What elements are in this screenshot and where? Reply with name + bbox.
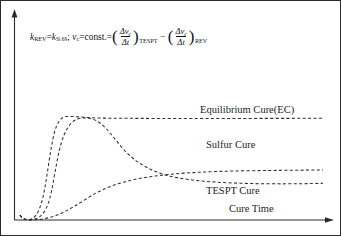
- formula-term-tespt: ( Δvc Δt )TESPT: [112, 27, 157, 46]
- formula-minus-operator: −: [160, 32, 165, 42]
- formula-semicolon: ;: [67, 32, 70, 42]
- formula-delta-v-1: Δv: [120, 26, 129, 36]
- formula-annotation: kREV = kSi 69 ; vc =const.= ( Δvc Δt )TE…: [30, 27, 207, 46]
- formula-fraction-1-numerator: Δvc: [119, 27, 132, 36]
- formula-fraction-1: Δvc Δt: [119, 27, 132, 46]
- formula-v-sub: c: [77, 35, 80, 42]
- curve-label-tespt-cure: TESPT Cure: [206, 186, 260, 197]
- formula-k-rev: kREV: [30, 32, 47, 42]
- x-axis-label: Cure Time: [229, 204, 274, 215]
- arrow-up-icon: [12, 9, 18, 18]
- curve-label-sulfur-cure: Sulfur Cure: [206, 140, 255, 151]
- formula-delta-v-2: Δv: [175, 26, 184, 36]
- formula-term-rev: ( Δvc Δt )REV: [168, 27, 208, 46]
- formula-k-sub-rev: REV: [34, 35, 46, 42]
- curve-equilibrium-cure: [20, 116, 323, 219]
- figure-container: kREV = kSi 69 ; vc =const.= ( Δvc Δt )TE…: [0, 0, 341, 236]
- formula-paren-open-1: (: [112, 28, 118, 45]
- formula-paren-close-1: ): [133, 28, 139, 45]
- formula-delta-v-sub-1: c: [129, 31, 131, 37]
- formula-paren-close-2: ): [189, 28, 195, 45]
- formula-k-si69: kSi 69: [52, 32, 67, 42]
- formula-tag-rev: REV: [195, 37, 207, 44]
- curve-sulfur-cure: [20, 118, 323, 220]
- formula-fraction-2-numerator: Δvc: [174, 27, 187, 36]
- formula-paren-open-2: (: [168, 28, 174, 45]
- formula-vc: vc: [72, 32, 79, 42]
- formula-delta-v-sub-2: c: [184, 31, 186, 37]
- curve-tespt-cure: [20, 170, 323, 220]
- formula-equals-2: =const.=: [79, 32, 112, 42]
- formula-tag-tespt: TESPT: [139, 37, 157, 44]
- formula-fraction-2: Δvc Δt: [174, 27, 187, 46]
- arrow-right-icon: [325, 217, 334, 223]
- formula-k2-sub: Si 69: [56, 36, 67, 42]
- formula-fraction-1-denominator: Δt: [121, 36, 130, 46]
- formula-fraction-2-denominator: Δt: [176, 36, 185, 46]
- curve-label-equilibrium-cure: Equilibrium Cure(EC): [200, 105, 294, 116]
